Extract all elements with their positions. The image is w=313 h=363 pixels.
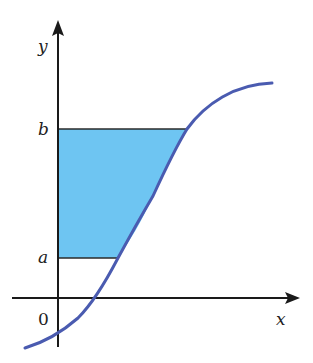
x-axis-label: x [276,309,286,329]
upper-bound-label: b [38,119,49,139]
y-axis-label: y [37,36,48,56]
origin-label: 0 [38,309,49,329]
shaded-region [58,129,187,258]
lower-bound-label: a [38,247,48,267]
diagram-canvas: y x 0 b a [0,0,313,363]
